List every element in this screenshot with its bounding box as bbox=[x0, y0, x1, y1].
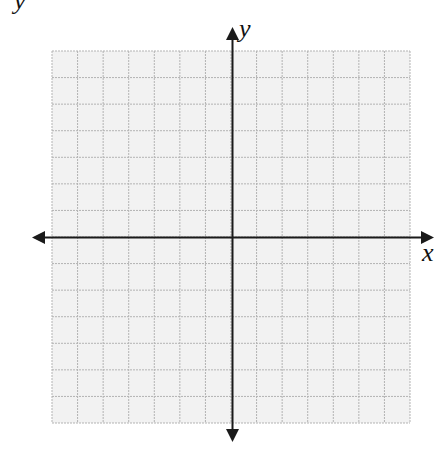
x-axis-label: x bbox=[422, 238, 434, 268]
y-axis-up-arrow-icon bbox=[226, 27, 239, 40]
y-axis-label: y bbox=[239, 14, 251, 44]
y-axis-down-arrow-icon bbox=[226, 429, 239, 442]
coordinate-plane bbox=[0, 0, 447, 454]
cropped-header-text: y bbox=[14, 0, 26, 16]
x-axis-left-arrow-icon bbox=[32, 231, 45, 244]
coordinate-plane-figure: y y x bbox=[0, 0, 447, 454]
